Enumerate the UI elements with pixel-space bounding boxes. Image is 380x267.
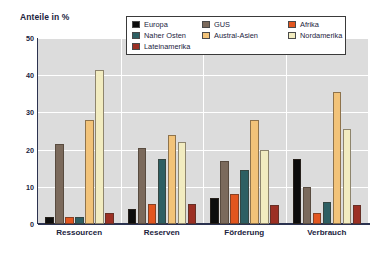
y-axis-tick-label: 20 — [26, 145, 34, 154]
bar — [210, 198, 219, 224]
legend-item: Austral-Asien — [202, 31, 286, 40]
bar — [138, 148, 147, 224]
legend-label: Nordamerika — [300, 31, 342, 40]
y-axis-tick-label: 0 — [30, 220, 34, 229]
y-axis-tick-label: 50 — [26, 34, 34, 43]
legend-item: Lateinamerika — [132, 42, 200, 51]
legend-label: Afrika — [300, 20, 319, 29]
legend-swatch-icon — [132, 32, 140, 39]
bar — [128, 209, 137, 224]
bar — [303, 187, 312, 224]
bar-group — [286, 38, 369, 224]
legend-swatch-icon — [202, 21, 210, 28]
bar — [260, 150, 269, 224]
bar — [220, 161, 229, 224]
legend-item: GUS — [202, 20, 286, 29]
legend-swatch-icon — [288, 32, 296, 39]
bar — [148, 204, 157, 224]
bar-group — [203, 38, 286, 224]
bar-group — [38, 38, 121, 224]
bar — [75, 217, 84, 224]
legend-label: Austral-Asien — [214, 31, 258, 40]
bar — [168, 135, 177, 224]
bar-group — [121, 38, 204, 224]
legend-item: Naher Osten — [132, 31, 200, 40]
bar — [55, 144, 64, 224]
bar — [293, 159, 302, 224]
legend-swatch-icon — [288, 21, 296, 28]
bar — [158, 159, 167, 224]
x-axis-tick-label: Reserven — [121, 228, 204, 237]
bar — [85, 120, 94, 224]
bar-group-bars — [121, 38, 204, 224]
bar — [323, 202, 332, 224]
legend-item: Nordamerika — [288, 31, 342, 40]
bar — [333, 92, 342, 224]
bar-group-bars — [38, 38, 121, 224]
legend-label: Lateinamerika — [144, 42, 190, 51]
bar — [270, 205, 279, 224]
bar — [105, 213, 114, 224]
legend-label: Europa — [144, 20, 168, 29]
bar — [45, 217, 54, 224]
y-axis-tick-label: 40 — [26, 71, 34, 80]
legend-swatch-icon — [132, 43, 140, 50]
x-axis-tick-labels: RessourcenReservenFörderungVerbrauch — [38, 228, 368, 237]
bar — [230, 194, 239, 224]
bar — [250, 120, 259, 224]
legend-item: Europa — [132, 20, 200, 29]
legend-swatch-icon — [202, 32, 210, 39]
bar — [178, 142, 187, 224]
x-axis-tick-label: Förderung — [203, 228, 286, 237]
legend-label: GUS — [214, 20, 230, 29]
legend-swatch-icon — [132, 21, 140, 28]
bar — [353, 205, 362, 224]
legend-item: Afrika — [288, 20, 342, 29]
bar — [65, 217, 74, 224]
y-axis: 01020304050 — [12, 0, 34, 267]
legend: EuropaGUSAfrikaNaher OstenAustral-AsienN… — [126, 16, 346, 55]
y-axis-tick-label: 10 — [26, 182, 34, 191]
bar-chart: Anteile in % 01020304050 RessourcenReser… — [0, 0, 380, 267]
bar-group-bars — [286, 38, 369, 224]
y-axis-tick-label: 30 — [26, 108, 34, 117]
bar — [313, 213, 322, 224]
bar — [240, 170, 249, 224]
bar-groups — [38, 38, 368, 224]
x-axis-tick-label: Ressourcen — [38, 228, 121, 237]
x-axis-tick-label: Verbrauch — [286, 228, 369, 237]
bar — [95, 70, 104, 224]
bar-group-bars — [203, 38, 286, 224]
legend-grid: EuropaGUSAfrikaNaher OstenAustral-AsienN… — [132, 20, 341, 51]
legend-label: Naher Osten — [144, 31, 186, 40]
bar — [188, 204, 197, 224]
bar — [343, 129, 352, 224]
